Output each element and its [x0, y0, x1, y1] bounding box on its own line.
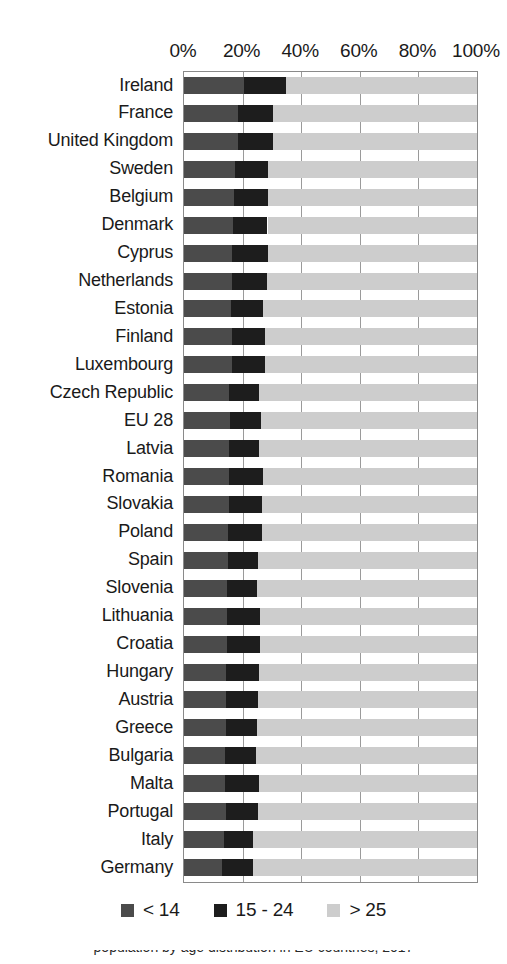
- bar-row: [184, 775, 477, 792]
- bar-segment: [229, 468, 263, 485]
- bar-segment: [184, 161, 235, 178]
- figure-caption: population by age distribution in EU cou…: [0, 950, 507, 964]
- bar-row: [184, 636, 477, 653]
- bar-segment: [262, 496, 477, 513]
- bar-segment: [232, 273, 267, 290]
- bar-row: [184, 608, 477, 625]
- y-tick-label: Luxembourg: [75, 353, 173, 375]
- y-tick-label: Netherlands: [78, 269, 173, 291]
- bar-row: [184, 859, 477, 876]
- bar-row: [184, 664, 477, 681]
- y-tick-label: Ireland: [119, 74, 173, 96]
- legend-swatch-icon: [214, 904, 227, 917]
- bar-segment: [259, 664, 477, 681]
- bar-segment: [238, 105, 273, 122]
- bar-segment: [263, 300, 477, 317]
- bar-row: [184, 691, 477, 708]
- bar-row: [184, 440, 477, 457]
- bar-segment: [184, 831, 224, 848]
- x-tick-label: 100%: [452, 40, 500, 62]
- y-tick-label: Greece: [115, 716, 173, 738]
- bar-segment: [232, 245, 267, 262]
- bar-segment: [226, 664, 258, 681]
- bar-segment: [233, 217, 267, 234]
- bar-segment: [232, 328, 265, 345]
- bar-segment: [268, 245, 477, 262]
- bar-row: [184, 105, 477, 122]
- y-tick-label: Italy: [141, 828, 173, 850]
- bar-segment: [226, 719, 257, 736]
- bar-segment: [184, 719, 226, 736]
- bar-row: [184, 245, 477, 262]
- x-tick-label: 60%: [340, 40, 377, 62]
- bar-segment: [184, 608, 227, 625]
- bar-segment: [225, 747, 256, 764]
- bar-segment: [260, 636, 477, 653]
- bar-segment: [259, 440, 477, 457]
- bar-segment: [244, 77, 286, 94]
- bar-segment: [265, 328, 477, 345]
- bar-segment: [184, 273, 232, 290]
- bar-segment: [184, 133, 238, 150]
- bar-segment: [259, 775, 477, 792]
- bar-row: [184, 356, 477, 373]
- bar-row: [184, 747, 477, 764]
- y-tick-label: Slovakia: [107, 492, 173, 514]
- bar-row: [184, 496, 477, 513]
- bar-segment: [257, 719, 477, 736]
- y-tick-label: Spain: [128, 548, 173, 570]
- bar-segment: [184, 691, 226, 708]
- y-tick-label: France: [118, 101, 173, 123]
- y-tick-label: Portugal: [108, 800, 173, 822]
- x-tick-label: 0%: [169, 40, 196, 62]
- bar-segment: [253, 859, 477, 876]
- bar-segment: [184, 803, 226, 820]
- y-tick-label: Slovenia: [106, 576, 173, 598]
- bar-segment: [184, 300, 231, 317]
- bar-rows: [184, 72, 477, 882]
- y-tick-label: Bulgaria: [109, 744, 173, 766]
- bar-row: [184, 468, 477, 485]
- bar-segment: [184, 105, 238, 122]
- bar-segment: [184, 636, 227, 653]
- bar-segment: [184, 356, 232, 373]
- y-tick-label: Belgium: [109, 185, 173, 207]
- bar-segment: [184, 440, 229, 457]
- bar-segment: [273, 133, 477, 150]
- y-tick-label: Austria: [118, 688, 173, 710]
- bar-row: [184, 412, 477, 429]
- y-tick-label: Lithuania: [102, 604, 173, 626]
- legend-item: 15 - 24: [214, 899, 294, 921]
- bar-segment: [253, 831, 477, 848]
- bar-segment: [227, 580, 256, 597]
- bar-row: [184, 803, 477, 820]
- y-tick-label: Latvia: [126, 437, 173, 459]
- y-axis-category-labels: IrelandFranceUnited KingdomSwedenBelgium…: [0, 71, 178, 881]
- bar-segment: [256, 747, 477, 764]
- legend-label: < 14: [143, 899, 180, 921]
- legend-swatch-icon: [327, 904, 340, 917]
- bar-segment: [265, 356, 477, 373]
- bar-segment: [184, 747, 225, 764]
- bar-segment: [184, 468, 229, 485]
- bar-segment: [230, 412, 261, 429]
- bar-segment: [226, 691, 258, 708]
- bar-segment: [184, 189, 234, 206]
- bar-segment: [184, 412, 230, 429]
- x-tick-label: 20%: [223, 40, 260, 62]
- stacked-bar-chart: 0%20%40%60%80%100% IrelandFranceUnited K…: [0, 0, 507, 964]
- figure-caption-text: population by age distribution in EU cou…: [94, 950, 414, 955]
- bar-segment: [263, 468, 477, 485]
- bar-segment: [229, 496, 263, 513]
- bar-segment: [257, 580, 477, 597]
- bar-segment: [238, 133, 273, 150]
- y-tick-label: Germany: [100, 856, 173, 878]
- chart-legend: < 1415 - 24> 25: [0, 897, 507, 923]
- bar-segment: [224, 831, 253, 848]
- y-tick-label: Sweden: [109, 157, 173, 179]
- bar-segment: [286, 77, 477, 94]
- legend-label: 15 - 24: [236, 899, 294, 921]
- bar-row: [184, 831, 477, 848]
- bar-segment: [262, 524, 477, 541]
- bar-segment: [184, 775, 225, 792]
